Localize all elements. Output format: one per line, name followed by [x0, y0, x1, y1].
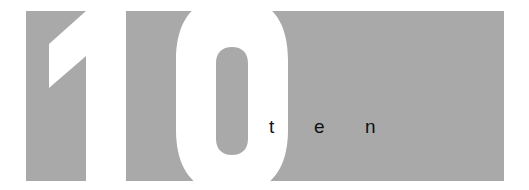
word-letter-n: n	[365, 117, 376, 136]
word-letter-t: t	[269, 117, 274, 136]
chapter-number-graphic: t e n	[0, 0, 529, 190]
word-letter-e: e	[314, 117, 325, 136]
numeral-ten-graphic	[0, 0, 529, 190]
